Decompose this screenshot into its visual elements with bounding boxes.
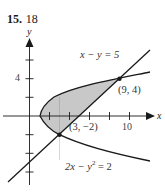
point-label-3-neg2: (3, −2): [69, 122, 98, 133]
y-axis-label: y: [27, 27, 31, 37]
intersection-point-9-4: [117, 77, 121, 81]
x-axis-arrow-icon: [146, 112, 155, 120]
point-label-9-4: (9, 4): [118, 85, 141, 96]
x-axis-label: x: [157, 111, 161, 121]
y-axis-arrow-icon: [26, 38, 34, 47]
answer-value: 18: [26, 12, 38, 26]
parabola-label-left: 2x − y: [65, 161, 92, 172]
line-equation-label: x − y = 5: [80, 50, 119, 61]
intersection-point-3-neg2: [57, 133, 61, 137]
y-tick-label-4: 4: [15, 73, 20, 83]
problem-header: 15. 18: [7, 13, 38, 25]
parabola-label-right: = 2: [95, 161, 111, 172]
x-tick-label-10: 10: [122, 122, 132, 132]
region-figure: 15. 18 y x 4 10 x − y = 5 2x − y2 = 2 (9…: [0, 0, 165, 194]
parabola-equation-label: 2x − y2 = 2: [65, 160, 112, 172]
problem-number: 15.: [7, 12, 22, 26]
